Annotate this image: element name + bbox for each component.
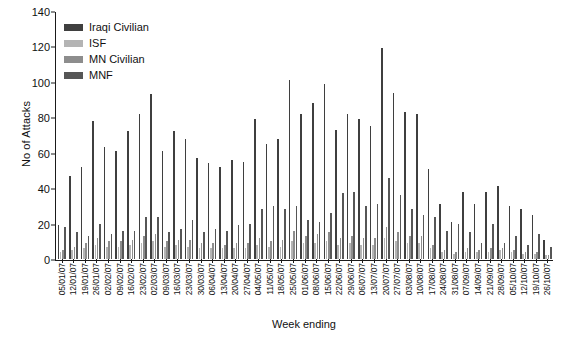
- x-axis-ticks: 05/01/0712/01/0719/01/0726/01/0702/02/07…: [56, 263, 553, 319]
- x-tick: 27/07/07: [391, 263, 403, 319]
- bar-group: [461, 11, 473, 259]
- bar: [458, 224, 460, 259]
- bar: [404, 112, 406, 259]
- y-tick-mark: [51, 118, 55, 119]
- bar: [162, 151, 164, 259]
- bar: [69, 176, 71, 259]
- x-tick-label: 27/07/07: [392, 263, 402, 295]
- bar-group: [183, 11, 195, 259]
- x-tick-label: 24/08/07: [438, 263, 448, 295]
- bar: [347, 114, 349, 259]
- bar: [203, 232, 205, 259]
- bar: [400, 195, 402, 259]
- x-tick-label: 25/05/07: [288, 263, 298, 295]
- x-tick: 07/09/07: [461, 263, 473, 319]
- x-tick-label: 26/10/07: [542, 263, 552, 295]
- y-tick-mark: [51, 12, 55, 13]
- legend-label: MNF: [89, 70, 113, 81]
- legend-item: Iraqi Civilian: [64, 20, 149, 34]
- bar-group: [322, 11, 334, 259]
- x-tick-label: 19/01/07: [80, 263, 90, 295]
- x-tick-label: 29/06/07: [346, 263, 356, 295]
- bar-group: [218, 11, 230, 259]
- bar-group: [264, 11, 276, 259]
- chart-container: No of Attacks 020406080100120140 05/01/0…: [0, 0, 566, 340]
- bar: [134, 231, 136, 259]
- bar-group: [495, 11, 507, 259]
- bar: [358, 119, 360, 259]
- bar: [254, 119, 256, 259]
- legend-label: MN Civilian: [89, 54, 145, 65]
- bar-group: [519, 11, 531, 259]
- bar: [481, 243, 483, 259]
- bar: [64, 227, 66, 259]
- x-tick-label: 09/03/07: [161, 263, 171, 295]
- x-tick: 11/05/07: [264, 263, 276, 319]
- bar: [273, 206, 275, 259]
- bar: [266, 144, 268, 259]
- bar: [92, 121, 94, 259]
- bar: [81, 167, 83, 259]
- bar: [462, 192, 464, 259]
- x-tick: 18/05/07: [276, 263, 288, 319]
- bar: [393, 93, 395, 260]
- bar: [446, 231, 448, 259]
- x-tick-label: 17/08/07: [427, 263, 437, 295]
- bar: [296, 206, 298, 259]
- bar: [168, 232, 170, 259]
- x-tick-label: 31/08/07: [450, 263, 460, 295]
- bar: [527, 245, 529, 259]
- bar-group: [391, 11, 403, 259]
- bar: [411, 209, 413, 259]
- x-tick: 13/04/07: [218, 263, 230, 319]
- bar: [231, 160, 233, 259]
- x-tick-label: 23/03/07: [184, 263, 194, 295]
- x-tick-label: 05/01/07: [57, 263, 67, 295]
- chart-legend: Iraqi CivilianISFMN CivilianMNF: [64, 20, 149, 84]
- bar-group: [160, 11, 172, 259]
- legend-swatch: [64, 24, 83, 31]
- x-tick: 13/07/07: [368, 263, 380, 319]
- x-tick-label: 18/05/07: [276, 263, 286, 295]
- x-tick-label: 06/04/07: [207, 263, 217, 295]
- bar: [330, 213, 332, 259]
- bar: [423, 215, 425, 259]
- x-tick-label: 21/09/07: [485, 263, 495, 295]
- bar-group: [403, 11, 415, 259]
- bar-group: [357, 11, 369, 259]
- x-tick: 02/03/07: [149, 263, 161, 319]
- bar: [474, 204, 476, 259]
- x-tick-label: 16/02/07: [126, 263, 136, 295]
- bar: [550, 247, 552, 259]
- bar: [515, 236, 517, 259]
- bar: [335, 130, 337, 259]
- bar: [428, 169, 430, 259]
- bar-group: [530, 11, 542, 259]
- x-axis-title: Week ending: [55, 318, 553, 330]
- x-tick-label: 22/06/07: [334, 263, 344, 295]
- y-tick-mark: [51, 260, 55, 261]
- bar: [185, 139, 187, 259]
- bar-group: [253, 11, 265, 259]
- bar: [111, 234, 113, 259]
- bar-group: [287, 11, 299, 259]
- y-tick-mark: [51, 153, 55, 154]
- bar: [353, 192, 355, 259]
- bar: [122, 231, 124, 259]
- bar: [289, 80, 291, 259]
- bar: [219, 167, 221, 259]
- x-tick: 01/06/07: [299, 263, 311, 319]
- x-tick-label: 13/07/07: [369, 263, 379, 295]
- bar: [150, 94, 152, 259]
- x-tick: 23/02/07: [137, 263, 149, 319]
- bar-group: [195, 11, 207, 259]
- bar: [115, 151, 117, 259]
- x-tick: 10/08/07: [414, 263, 426, 319]
- bar-group: [334, 11, 346, 259]
- x-tick: 04/05/07: [253, 263, 265, 319]
- bar: [370, 126, 372, 259]
- x-tick: 06/07/07: [357, 263, 369, 319]
- x-tick: 02/02/07: [102, 263, 114, 319]
- bar: [497, 186, 499, 259]
- x-tick: 27/04/07: [241, 263, 253, 319]
